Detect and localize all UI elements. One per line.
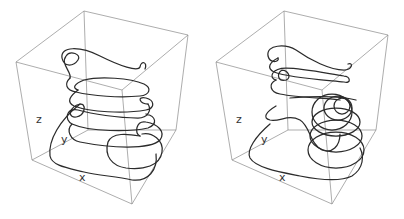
space-curve (50, 49, 162, 180)
bounding-box (216, 11, 388, 204)
y-axis-label: y (261, 133, 268, 146)
z-axis-label: z (36, 113, 42, 126)
3d-plot-right: z y x (200, 0, 402, 219)
z-axis-label: z (236, 113, 242, 126)
space-curve (249, 46, 364, 180)
3d-plot-left: z y x (0, 0, 202, 219)
plot-panel-left: z y x (0, 0, 202, 219)
plot-panel-right: z y x (200, 0, 402, 219)
y-axis-label: y (61, 133, 68, 146)
x-axis-label: x (279, 171, 286, 184)
x-axis-label: x (79, 171, 86, 184)
